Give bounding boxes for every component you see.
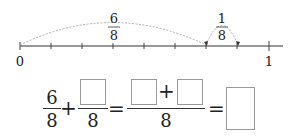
term2-denominator: 8 (85, 112, 101, 130)
arc1-denominator: 8 (106, 29, 122, 42)
term2-fraction-bar (78, 108, 108, 109)
result-input[interactable] (226, 87, 255, 130)
arc2-numerator: 1 (214, 12, 230, 25)
equals-sign: = (108, 99, 124, 119)
axis-label-end: 1 (263, 55, 275, 68)
combined-plus-sign: + (158, 81, 172, 101)
combined-denominator: 8 (158, 112, 174, 130)
term1-fraction-bar (43, 108, 61, 109)
combined-numerator-left-input[interactable] (131, 79, 157, 105)
combined-numerator-right-input[interactable] (177, 79, 203, 105)
plus-sign: + (60, 98, 76, 118)
arc1-numerator: 6 (106, 12, 122, 25)
term1-numerator: 6 (44, 89, 60, 107)
arc2-denominator: 8 (214, 29, 230, 42)
equals-sign-2: = (208, 99, 224, 119)
axis-label-start: 0 (14, 55, 26, 68)
term1-denominator: 8 (44, 112, 60, 130)
term2-numerator-input[interactable] (80, 79, 106, 105)
combined-fraction-bar (127, 108, 205, 109)
